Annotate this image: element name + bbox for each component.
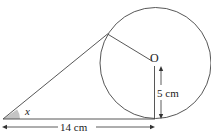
angle-x-wedge: [3, 109, 20, 119]
geometry-diagram: O 5 cm 14 cm x: [0, 0, 211, 132]
base-label: 14 cm: [60, 121, 88, 132]
center-label: O: [150, 51, 159, 65]
angle-label: x: [24, 105, 30, 117]
radius-to-tangent-point: [108, 34, 153, 61]
radius-label: 5 cm: [157, 87, 179, 99]
tangent-line: [3, 34, 108, 119]
